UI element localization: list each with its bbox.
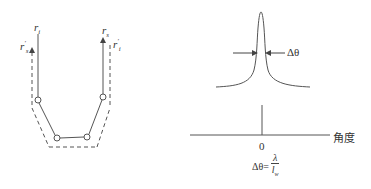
label-r-i-prime: r'i — [113, 38, 121, 53]
formula-numerator: λ — [271, 152, 279, 164]
formula-denominator: lw — [272, 164, 279, 180]
formula-lhs: Δθ= — [252, 161, 269, 172]
node-1 — [35, 97, 41, 103]
node-4 — [100, 94, 106, 100]
node-2 — [54, 135, 60, 141]
label-r-s-prime: r's — [20, 40, 29, 55]
delta-theta-label: Δθ — [287, 46, 299, 58]
label-r-i: ri — [34, 22, 40, 36]
solid-path — [38, 34, 103, 138]
dashed-path — [32, 45, 110, 147]
x-axis-label: 角度 — [333, 129, 355, 145]
node-3 — [84, 134, 90, 140]
formula: Δθ= λ lw — [252, 152, 279, 180]
origin-label: 0 — [259, 140, 265, 152]
label-r-s: rs — [102, 25, 109, 39]
diagram-canvas — [0, 0, 371, 189]
